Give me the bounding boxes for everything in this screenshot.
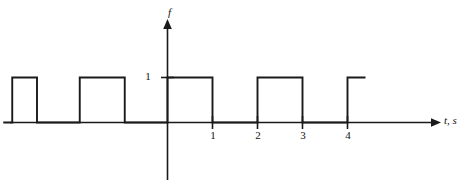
- y-axis-arrowhead: [163, 19, 172, 29]
- x-tick-label-3: 3: [297, 130, 309, 141]
- y-tick-label-1: 1: [143, 71, 153, 82]
- y-axis-label: f: [168, 7, 171, 18]
- x-tick-label-4: 4: [342, 130, 354, 141]
- x-axis-label: t, s: [444, 115, 457, 126]
- square-wave-trace: [3, 78, 365, 123]
- square-wave-figure: f t, s 1 1 2 3 4: [0, 0, 470, 187]
- x-tick-label-1: 1: [207, 130, 219, 141]
- x-tick-label-2: 2: [252, 130, 264, 141]
- plot-canvas: [0, 0, 470, 187]
- x-axis-arrowhead: [431, 118, 441, 127]
